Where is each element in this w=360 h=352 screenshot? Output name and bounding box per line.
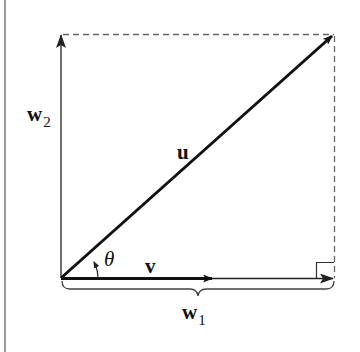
right-angle-marker: [317, 263, 335, 279]
theta-label: θ: [104, 249, 114, 270]
u-label: u: [177, 142, 189, 163]
u-vector: [61, 36, 332, 278]
w2-label: w2: [27, 104, 51, 125]
vector-decomposition-figure: w2 u θ v w1: [0, 0, 360, 352]
w1-brace: [62, 281, 334, 296]
v-label: v: [145, 256, 156, 277]
w1-label: w1: [182, 302, 206, 323]
diagram-canvas: [0, 0, 360, 352]
theta-arc: [94, 262, 98, 278]
